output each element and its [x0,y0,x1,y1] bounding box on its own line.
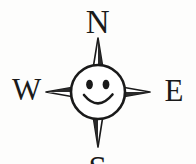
smiley-face-circle [71,65,125,119]
cardinal-label-south: S [0,152,196,164]
cardinal-label-west: W [12,74,42,105]
right-eye-icon [103,80,110,90]
cardinal-label-north: N [0,6,196,39]
cardinal-label-east: E [165,75,184,106]
compass-rose-figure: N W E S [0,0,196,164]
left-eye-icon [86,80,93,90]
